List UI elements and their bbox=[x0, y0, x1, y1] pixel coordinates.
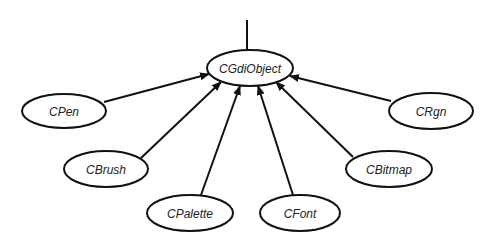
edge-cbrush-to-cgdiobject bbox=[141, 82, 221, 158]
node-crgn[interactable]: CRgn bbox=[389, 93, 473, 129]
node-cbitmap[interactable]: CBitmap bbox=[346, 151, 432, 187]
cbrush-label: CBrush bbox=[86, 163, 126, 177]
edge-cpen-to-cgdiobject bbox=[104, 74, 209, 102]
inheritance-edges bbox=[104, 74, 391, 195]
cpalette-label: CPalette bbox=[167, 207, 213, 221]
node-cpalette[interactable]: CPalette bbox=[147, 195, 233, 231]
cbitmap-label: CBitmap bbox=[366, 163, 412, 177]
edge-cbitmap-to-cgdiobject bbox=[276, 82, 353, 157]
edge-cfont-to-cgdiobject bbox=[258, 86, 293, 195]
crgn-label: CRgn bbox=[416, 105, 447, 119]
edge-cpalette-to-cgdiobject bbox=[201, 86, 240, 195]
class-hierarchy-diagram: CGdiObjectCPenCBrushCPaletteCFontCBitmap… bbox=[0, 0, 499, 244]
node-cbrush[interactable]: CBrush bbox=[64, 151, 148, 187]
edge-crgn-to-cgdiobject bbox=[290, 76, 391, 101]
node-cgdiobject[interactable]: CGdiObject bbox=[207, 50, 293, 86]
class-nodes: CGdiObjectCPenCBrushCPaletteCFontCBitmap… bbox=[22, 50, 473, 231]
cpen-label: CPen bbox=[49, 105, 79, 119]
node-cpen[interactable]: CPen bbox=[22, 94, 106, 128]
node-cfont[interactable]: CFont bbox=[260, 195, 340, 231]
cfont-label: CFont bbox=[284, 207, 317, 221]
cgdiobject-label: CGdiObject bbox=[219, 62, 282, 76]
